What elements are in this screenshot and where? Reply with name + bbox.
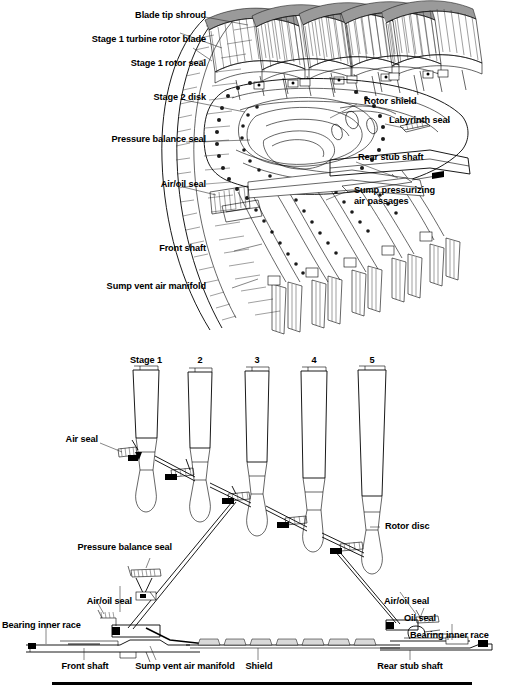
label-shield: Shield <box>234 661 284 672</box>
stage2-disk-rings <box>238 97 374 166</box>
label-stage-5: 5 <box>352 355 392 366</box>
top-isometric-cutaway <box>162 1 482 334</box>
label-stage-1: Stage 1 <box>106 355 186 366</box>
label-sump-pressurizing-air-passages-line2: air passages <box>354 196 504 207</box>
label-sump-vent-air-manifold-bottom: Sump vent air manifold <box>120 661 250 672</box>
bottom-rule <box>52 682 472 685</box>
label-rear-stub-shaft-bottom: Rear stub shaft <box>360 661 460 672</box>
label-pressure-balance-seal-top: Pressure balance seal <box>16 134 206 145</box>
label-labyrinth-seal: Labyrinth seal <box>389 115 509 126</box>
label-rotor-disc: Rotor disc <box>385 521 475 532</box>
label-air-oil-seal-top: Air/oil seal <box>66 179 206 190</box>
label-rear-stub-shaft-top: Rear stub shaft <box>358 152 506 163</box>
label-rotor-shield: Rotor shield <box>364 96 504 107</box>
label-stage-3: 3 <box>237 355 277 366</box>
seal-packs <box>118 440 363 554</box>
turbine-rotor-figure: Blade tip shroud Stage 1 turbine rotor b… <box>0 0 511 692</box>
label-front-shaft-bottom: Front shaft <box>40 661 130 672</box>
label-air-oil-seal-right: Air/oil seal <box>384 596 474 607</box>
cone-struts <box>128 502 400 629</box>
shield-plate <box>186 639 400 648</box>
blade-rows <box>205 1 482 73</box>
label-stage-4: 4 <box>294 355 334 366</box>
pressure-balance-seal-assembly <box>128 566 161 600</box>
label-front-shaft-top: Front shaft <box>86 243 206 254</box>
label-sump-pressurizing-air-passages-line1: Sump pressurizing <box>354 185 504 196</box>
label-stage-1-turbine-rotor-blade: Stage 1 turbine rotor blade <box>16 34 206 45</box>
blade-stage-1 <box>133 366 159 512</box>
label-air-oil-seal-left: Air/oil seal <box>52 596 132 607</box>
label-stage-1-rotor-seal: Stage 1 rotor seal <box>50 58 206 69</box>
blade-stage-2 <box>188 368 212 522</box>
blade-stage-4 <box>301 367 327 552</box>
label-sump-vent-air-manifold-top: Sump vent air manifold <box>36 281 206 292</box>
label-air-seal: Air seal <box>28 434 98 445</box>
label-bearing-inner-race-right: Bearing inner race <box>410 630 510 641</box>
lower-blade-stubs <box>268 232 460 334</box>
label-oil-seal: Oil seal <box>404 613 474 624</box>
label-bearing-inner-race-left: Bearing inner race <box>2 620 98 631</box>
label-blade-tip-shroud: Blade tip shroud <box>58 10 206 21</box>
blade-stage-3 <box>245 367 269 536</box>
label-stage-2: 2 <box>180 355 220 366</box>
label-pressure-balance-seal-bottom: Pressure balance seal <box>52 542 172 553</box>
inner-hub <box>263 131 334 169</box>
label-stage-2-disk: Stage 2 disk <box>66 92 206 103</box>
disc-webs-section <box>155 456 364 557</box>
